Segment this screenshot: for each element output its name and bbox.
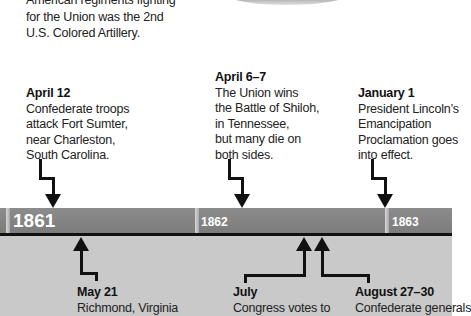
- connector-line: [39, 159, 42, 179]
- connector-line: [228, 159, 231, 179]
- connector-line: [244, 274, 306, 277]
- event-date: January 1: [358, 86, 459, 102]
- arrow-down-icon: [45, 194, 61, 208]
- event-date: July: [233, 285, 330, 301]
- event-text: the Battle of Shiloh,: [215, 101, 319, 117]
- historical-photo: [228, 0, 346, 5]
- event-text: attack Fort Sumter,: [26, 117, 129, 133]
- caption-line: for the Union was the 2nd: [26, 9, 226, 26]
- arrow-up-icon: [314, 237, 330, 251]
- connector-line: [321, 274, 369, 277]
- event-july: July Congress votes to: [233, 285, 330, 316]
- event-date: April 12: [26, 86, 129, 102]
- year-label-1863: 1863: [392, 211, 419, 233]
- arrow-down-icon: [234, 194, 250, 208]
- connector-line: [303, 250, 306, 276]
- connector-line: [367, 274, 370, 283]
- connector-line: [80, 250, 83, 274]
- connector-line: [95, 272, 98, 281]
- event-text: but many die on: [215, 132, 319, 148]
- event-date: April 6–7: [215, 70, 319, 86]
- caption-line: U.S. Colored Artillery.: [26, 25, 226, 42]
- event-august-27-30: August 27–30 Confederate generals: [355, 285, 471, 316]
- caption-line: American regiments fighting: [26, 0, 226, 9]
- event-text: The Union wins: [215, 86, 319, 102]
- event-january-1: January 1 President Lincoln’s Emancipati…: [358, 86, 459, 164]
- timeline-baseline: [0, 233, 452, 236]
- connector-line: [244, 274, 247, 283]
- event-text: Richmond, Virginia: [77, 301, 178, 316]
- year-label-1861: 1861: [13, 210, 55, 232]
- event-date: May 21: [77, 285, 178, 301]
- event-text: Congress votes to: [233, 301, 330, 316]
- connector-line: [371, 159, 374, 179]
- event-may-21: May 21 Richmond, Virginia: [77, 285, 178, 316]
- arrow-up-icon: [73, 237, 89, 251]
- event-date: August 27–30: [355, 285, 471, 301]
- event-text: near Charleston,: [26, 133, 129, 149]
- event-text: Confederate generals: [355, 301, 471, 316]
- year-divider: [6, 208, 10, 233]
- event-text: Confederate troops: [26, 102, 129, 118]
- photo-caption: American regiments fighting for the Unio…: [26, 0, 226, 42]
- event-text: in Tennessee,: [215, 117, 319, 133]
- connector-line: [321, 250, 324, 276]
- arrow-up-icon: [296, 237, 312, 251]
- year-label-1862: 1862: [201, 211, 228, 233]
- event-april-6-7: April 6–7 The Union wins the Battle of S…: [215, 70, 319, 163]
- arrow-down-icon: [377, 194, 393, 208]
- event-text: Proclamation goes: [358, 133, 459, 149]
- year-divider: [385, 208, 389, 233]
- year-divider: [195, 208, 199, 233]
- event-text: President Lincoln’s: [358, 102, 459, 118]
- event-april-12: April 12 Confederate troops attack Fort …: [26, 86, 129, 164]
- event-text: Emancipation: [358, 117, 459, 133]
